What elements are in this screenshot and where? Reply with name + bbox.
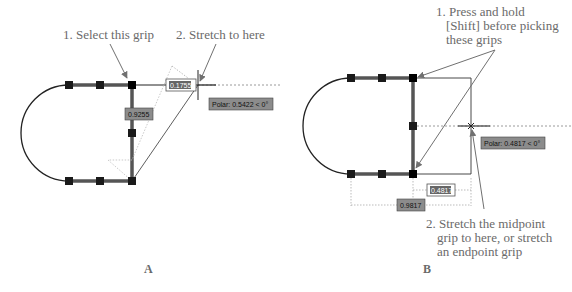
callout-stretch-midpoint-line2: grip to here, or stretch	[437, 230, 553, 245]
grip-top-corner-selected[interactable]	[409, 74, 417, 82]
grip-bottom-corner-selected[interactable]	[409, 170, 417, 178]
callout-press-shift-line2: [Shift] before picking	[446, 18, 559, 33]
panel-a: 0.1755 0.9255 Polar: 0.5422 < 0° 1. Sele…	[21, 27, 280, 276]
polar-tooltip-text: Polar: 0.4817 < 0°	[484, 140, 541, 147]
dimension-readout-value: 0.9255	[128, 111, 150, 118]
grip-top-mid[interactable]	[378, 74, 386, 82]
grip-top-mid[interactable]	[96, 81, 104, 89]
grip-bottom-end[interactable]	[65, 177, 73, 185]
arc-geometry	[303, 78, 351, 174]
grip-stretch-diagram: 0.1755 0.9255 Polar: 0.5422 < 0° 1. Sele…	[0, 0, 572, 292]
callout-press-shift-line3: these grips	[446, 32, 502, 47]
grip-bottom-mid[interactable]	[378, 170, 386, 178]
grip-top-end[interactable]	[347, 74, 355, 82]
polar-tooltip-text: Polar: 0.5422 < 0°	[212, 101, 269, 108]
panel-label-a: A	[144, 262, 153, 276]
grip-bottom-mid[interactable]	[96, 177, 104, 185]
grip-vertical-mid[interactable]	[128, 129, 136, 137]
dynamic-input-value[interactable]: 0.4817	[431, 187, 453, 194]
dimension-readout-value: 0.9817	[400, 202, 422, 209]
callout-stretch-midpoint-line3: an endpoint grip	[437, 244, 522, 259]
grip-bottom-corner[interactable]	[128, 177, 136, 185]
dynamic-input-value[interactable]: 0.1755	[170, 82, 192, 89]
arc-geometry	[21, 85, 69, 181]
callout-stretch-to: 2. Stretch to here	[176, 27, 265, 42]
grip-bottom-end[interactable]	[347, 170, 355, 178]
grip-selected[interactable]	[128, 81, 136, 89]
panel-b: 0.4817 0.9817 Polar: 0.4817 < 0° 1. Pres…	[303, 4, 572, 276]
callout-select-grip: 1. Select this grip	[63, 27, 154, 42]
grip-top-end[interactable]	[65, 81, 73, 89]
grip-vertical-mid[interactable]	[409, 122, 417, 130]
panel-label-b: B	[423, 262, 431, 276]
leader-arrow	[418, 50, 495, 77]
leader-arrow	[110, 44, 127, 78]
leader-arrow	[416, 50, 495, 168]
callout-press-shift: 1. Press and hold	[436, 4, 525, 19]
callout-stretch-midpoint: 2. Stretch the midpoint	[426, 216, 546, 231]
leader-arrow	[200, 44, 216, 81]
